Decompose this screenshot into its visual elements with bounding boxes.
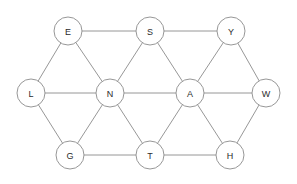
graph-node-circle-h[interactable] xyxy=(216,141,244,169)
graph-edge-s-n xyxy=(118,43,143,81)
graph-node-circle-t[interactable] xyxy=(136,141,164,169)
graph-node-a[interactable]: A xyxy=(176,79,204,107)
graph-edge-a-h xyxy=(198,105,223,143)
graph-node-circle-g[interactable] xyxy=(56,141,84,169)
graph-node-e[interactable]: E xyxy=(54,17,82,45)
graph-node-circle-a[interactable] xyxy=(176,79,204,107)
graph-node-circle-e[interactable] xyxy=(54,17,82,45)
graph-node-n[interactable]: N xyxy=(96,79,124,107)
graph-node-t[interactable]: T xyxy=(136,141,164,169)
graph-node-circle-l[interactable] xyxy=(17,79,45,107)
graph-edge-h-w xyxy=(237,105,259,143)
graph-node-circle-s[interactable] xyxy=(136,17,164,45)
graph-edge-e-n xyxy=(76,43,102,82)
graph-node-circle-w[interactable] xyxy=(252,79,280,107)
graph-node-circle-y[interactable] xyxy=(217,17,245,45)
edge-layer xyxy=(38,31,259,155)
graph-node-circle-n[interactable] xyxy=(96,79,124,107)
graph-edge-y-a xyxy=(198,43,224,82)
graph-edge-s-a xyxy=(158,43,183,81)
graph-edge-l-g xyxy=(38,105,62,143)
graph-edge-a-t xyxy=(158,105,183,143)
graph-node-w[interactable]: W xyxy=(252,79,280,107)
graph-edge-y-w xyxy=(238,43,259,81)
graph-node-s[interactable]: S xyxy=(136,17,164,45)
graph-node-g[interactable]: G xyxy=(56,141,84,169)
graph-node-h[interactable]: H xyxy=(216,141,244,169)
graph-node-y[interactable]: Y xyxy=(217,17,245,45)
graph-edge-n-t xyxy=(118,105,143,143)
graph-edge-g-n xyxy=(78,105,103,143)
graph-diagram: ESYLNAWGTH xyxy=(0,0,297,184)
graph-node-l[interactable]: L xyxy=(17,79,45,107)
graph-edge-e-l xyxy=(38,43,61,81)
